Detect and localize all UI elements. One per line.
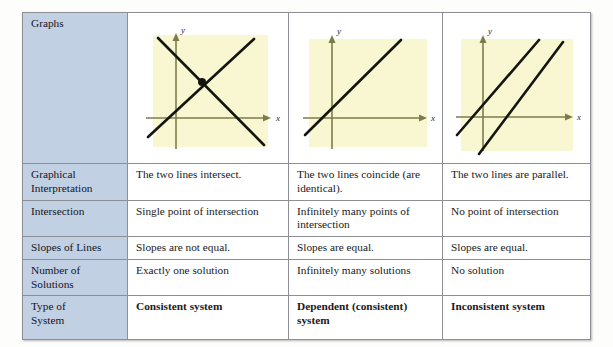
- cell-intersection-parallel: No point of intersection: [443, 200, 591, 237]
- row-header-label-line2: Solutions: [31, 278, 120, 292]
- y-axis-label: y: [487, 26, 492, 36]
- row-header-label-line1: Graphical: [31, 168, 120, 182]
- table-row-type-of-system: Type of System Consistent system Depende…: [23, 296, 591, 340]
- row-header-number-of-solutions: Number of Solutions: [23, 259, 128, 296]
- plot-background: [309, 39, 427, 147]
- graph-parallel-lines: x y: [451, 17, 593, 159]
- row-header-label-line2: System: [31, 314, 120, 328]
- plot-background: [461, 39, 573, 151]
- cell-graphical-interpretation-intersecting: The two lines intersect.: [128, 164, 289, 201]
- table-row-graphs: Graphs: [23, 13, 591, 164]
- cell-graphical-interpretation-parallel: The two lines are parallel.: [443, 164, 591, 201]
- cell-solutions-parallel: No solution: [443, 259, 591, 296]
- cell-graph-intersecting: x y: [128, 13, 289, 164]
- row-header-label-line2: Interpretation: [31, 182, 120, 196]
- table-row-graphical-interpretation: Graphical Interpretation The two lines i…: [23, 164, 591, 201]
- row-header-slopes-of-lines: Slopes of Lines: [23, 237, 128, 260]
- row-header-label: Intersection: [31, 205, 84, 217]
- row-header-type-of-system: Type of System: [23, 296, 128, 340]
- y-axis-label: y: [336, 26, 341, 36]
- graph-intersecting-lines: x y: [136, 17, 291, 159]
- cell-graph-coincident: x y: [289, 13, 443, 164]
- row-header-intersection: Intersection: [23, 200, 128, 237]
- intersection-point-dot: [198, 78, 206, 86]
- cell-slopes-intersecting: Slopes are not equal.: [128, 237, 289, 260]
- row-header-label: Slopes of Lines: [31, 241, 101, 253]
- systems-of-equations-comparison-table: Graphs: [22, 12, 591, 340]
- cell-graphical-interpretation-coincident: The two lines coincide (are identical).: [289, 164, 443, 201]
- cell-type-parallel: Inconsistent system: [443, 296, 591, 340]
- x-axis-label: x: [275, 113, 280, 123]
- graph-coincident-lines: x y: [297, 17, 445, 159]
- y-axis-label: y: [180, 25, 185, 35]
- comparison-table-container: Graphs: [22, 12, 590, 328]
- cell-type-coincident: Dependent (consistent) system: [289, 296, 443, 340]
- row-header-label-line1: Number of: [31, 264, 120, 278]
- row-header-graphs: Graphs: [23, 13, 128, 164]
- table-row-number-of-solutions: Number of Solutions Exactly one solution…: [23, 259, 591, 296]
- row-header-label-line1: Type of: [31, 300, 120, 314]
- cell-solutions-coincident: Infinitely many solutions: [289, 259, 443, 296]
- cell-slopes-coincident: Slopes are equal.: [289, 237, 443, 260]
- cell-type-intersecting: Consistent system: [128, 296, 289, 340]
- cell-intersection-intersecting: Single point of intersection: [128, 200, 289, 237]
- x-axis-label: x: [430, 113, 435, 123]
- cell-solutions-intersecting: Exactly one solution: [128, 259, 289, 296]
- row-header-label: Graphs: [31, 17, 64, 29]
- table-row-intersection: Intersection Single point of intersectio…: [23, 200, 591, 237]
- cell-slopes-parallel: Slopes are equal.: [443, 237, 591, 260]
- row-header-graphical-interpretation: Graphical Interpretation: [23, 164, 128, 201]
- x-axis-label: x: [576, 112, 581, 122]
- table-row-slopes-of-lines: Slopes of Lines Slopes are not equal. Sl…: [23, 237, 591, 260]
- cell-intersection-coincident: Infinitely many points of intersection: [289, 200, 443, 237]
- cell-graph-parallel: x y: [443, 13, 591, 164]
